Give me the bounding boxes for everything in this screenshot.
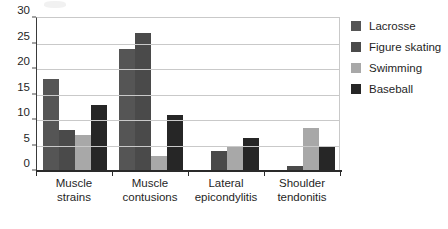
- x-tick-mark: [36, 171, 37, 176]
- bar: [43, 79, 59, 171]
- legend-swatch-icon: [351, 21, 361, 31]
- x-tick-mark: [188, 171, 189, 176]
- y-tick-mark: [32, 42, 36, 43]
- x-tick-mark: [340, 171, 341, 176]
- y-tick-label: 30: [0, 5, 30, 17]
- gridline: [37, 120, 339, 121]
- legend-item: Baseball: [351, 78, 447, 99]
- bar: [319, 146, 335, 172]
- x-axis-category-label: Lateralepicondylitis: [188, 177, 264, 204]
- x-axis-category-label-line: Muscle: [36, 177, 112, 191]
- x-tick-mark: [264, 171, 265, 176]
- legend-swatch-icon: [351, 42, 361, 52]
- legend-swatch-icon: [351, 63, 361, 73]
- bar: [303, 128, 319, 171]
- legend-swatch-icon: [351, 84, 361, 94]
- y-tick-mark: [32, 119, 36, 120]
- legend-label: Figure skating: [369, 41, 441, 53]
- y-tick-label: 0: [0, 158, 30, 170]
- bar: [91, 105, 107, 171]
- bar: [227, 146, 243, 172]
- plot-area: [36, 17, 340, 171]
- bar: [167, 115, 183, 171]
- y-tick-label: 20: [0, 56, 30, 68]
- x-axis-category-label: Musclestrains: [36, 177, 112, 204]
- chart-legend: LacrosseFigure skatingSwimmingBaseball: [351, 15, 447, 99]
- legend-label: Lacrosse: [369, 20, 416, 32]
- y-tick-mark: [32, 93, 36, 94]
- y-tick-mark: [32, 68, 36, 69]
- y-tick-mark: [32, 17, 36, 18]
- gridline: [37, 146, 339, 147]
- bar-chart: 051015202530 LacrosseFigure skatingSwimm…: [0, 0, 448, 229]
- x-axis-category-label-line: strains: [36, 191, 112, 205]
- y-tick-label: 5: [0, 133, 30, 145]
- bar: [243, 138, 259, 171]
- legend-item: Swimming: [351, 57, 447, 78]
- gridline: [37, 95, 339, 96]
- y-tick-label: 10: [0, 107, 30, 119]
- x-axis-category-label-line: Lateral: [188, 177, 264, 191]
- gridline: [37, 69, 339, 70]
- y-axis: 051015202530: [0, 11, 30, 171]
- bar: [119, 49, 135, 171]
- bar: [75, 135, 91, 171]
- x-axis-category-label-line: Shoulder: [264, 177, 340, 191]
- x-axis-category-label-line: epicondylitis: [188, 191, 264, 205]
- y-tick-label: 25: [0, 31, 30, 43]
- legend-item: Lacrosse: [351, 15, 447, 36]
- scan-artifact: [44, 1, 66, 8]
- y-tick-mark: [32, 144, 36, 145]
- x-axis-category-label: Musclecontusions: [112, 177, 188, 204]
- legend-label: Swimming: [369, 62, 422, 74]
- x-axis-category-label-line: Muscle: [112, 177, 188, 191]
- bar: [151, 156, 167, 171]
- x-axis-category-label-line: tendonitis: [264, 191, 340, 205]
- y-tick-label: 15: [0, 82, 30, 94]
- gridline: [37, 44, 339, 45]
- x-tick-mark: [112, 171, 113, 176]
- legend-label: Baseball: [369, 83, 413, 95]
- bar: [59, 130, 75, 171]
- x-axis-category-label: Shouldertendonitis: [264, 177, 340, 204]
- bar: [211, 151, 227, 171]
- x-axis-category-label-line: contusions: [112, 191, 188, 205]
- legend-item: Figure skating: [351, 36, 447, 57]
- bar: [135, 33, 151, 171]
